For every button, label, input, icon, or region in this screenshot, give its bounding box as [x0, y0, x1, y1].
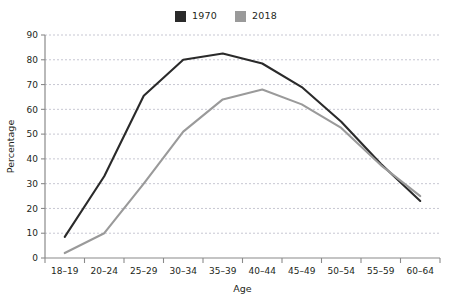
line-chart-svg: 0102030405060708090 18–1920–2425–2930–34… [0, 0, 452, 303]
series-line-1970 [65, 54, 421, 237]
y-tick-label: 0 [32, 253, 38, 263]
series-group [65, 54, 421, 253]
y-tick-label: 60 [27, 105, 39, 115]
y-axis-group: 0102030405060708090 [27, 30, 45, 263]
x-axis-group: 18–1920–2425–2930–3435–3940–4445–4950–54… [45, 258, 440, 276]
chart-container: 1970 2018 0102030405060708090 18–1920–24… [0, 0, 452, 303]
x-tick-label: 25–29 [130, 266, 158, 276]
y-tick-label: 70 [27, 80, 39, 90]
y-tick-label: 10 [27, 228, 39, 238]
y-tick-label: 20 [27, 204, 39, 214]
x-tick-label: 18–19 [51, 266, 79, 276]
x-tick-label: 45–49 [288, 266, 316, 276]
series-line-2018 [65, 90, 421, 254]
x-tick-label: 55–59 [367, 266, 395, 276]
x-tick-label: 20–24 [91, 266, 119, 276]
y-tick-label: 80 [27, 55, 39, 65]
x-tick-label: 40–44 [249, 266, 277, 276]
x-tick-label: 35–39 [209, 266, 237, 276]
x-tick-label: 30–34 [170, 266, 198, 276]
y-tick-label: 50 [27, 129, 39, 139]
plot-area: 0102030405060708090 18–1920–2425–2930–34… [0, 0, 452, 303]
y-tick-label: 40 [27, 154, 39, 164]
x-axis-title: Age [233, 283, 252, 294]
x-axis-ticks: 18–1920–2425–2930–3435–3940–4445–4950–54… [45, 258, 440, 276]
y-axis-ticks: 0102030405060708090 [27, 30, 45, 263]
y-tick-label: 30 [27, 179, 39, 189]
y-axis-title: Percentage [5, 120, 16, 174]
gridlines-group [45, 35, 440, 233]
x-tick-label: 50–54 [328, 266, 356, 276]
y-tick-label: 90 [27, 30, 39, 40]
x-tick-label: 60–64 [407, 266, 435, 276]
